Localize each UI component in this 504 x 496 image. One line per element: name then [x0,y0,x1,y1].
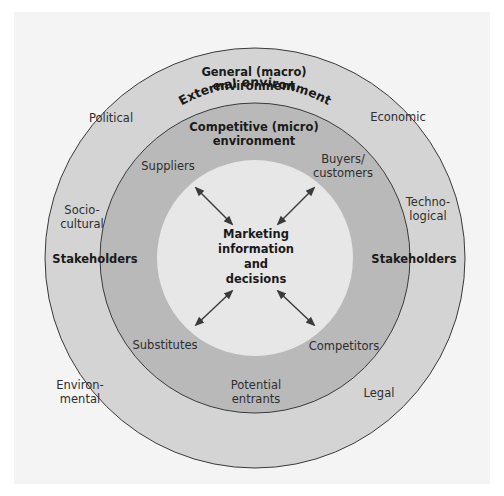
general-title-line1: General (macro) [201,65,306,79]
center-line2: information [218,242,294,257]
center-line3: and [218,257,294,272]
factor-technological: Techno- logical [406,195,450,223]
force-competitors: Competitors [309,339,380,353]
environ-line1: Environ- [56,378,104,392]
competitive-environment-title: Competitive (micro) environment [189,120,318,148]
force-substitutes: Substitutes [133,338,198,352]
entrants-line1: Potential [231,378,281,392]
entrants-line2: entrants [231,392,281,406]
factor-economic: Economic [370,110,426,124]
force-potential-entrants: Potential entrants [231,378,281,406]
factor-sociocultural: Socio- cultural [60,203,104,231]
socio-line2: cultural [60,217,104,231]
techno-line2: logical [406,209,450,223]
center-line1: Marketing [218,227,294,242]
socio-line1: Socio- [60,203,104,217]
factor-environmental: Environ- mental [56,378,104,406]
buyers-line2: customers [313,166,373,180]
force-buyers-customers: Buyers/ customers [313,152,373,180]
stakeholders-left: Stakeholders [52,252,137,266]
general-environment-title: General (macro) environment [201,65,306,93]
factor-political: Political [89,111,133,125]
center-line4: decisions [218,272,294,287]
general-title-line2: environment [201,79,306,93]
environ-line2: mental [56,392,104,406]
stakeholders-right: Stakeholders [371,252,456,266]
techno-line1: Techno- [406,195,450,209]
competitive-title-line2: environment [189,134,318,148]
factor-legal: Legal [364,386,395,400]
competitive-title-line1: Competitive (micro) [189,120,318,134]
center-marketing-decisions: Marketing information and decisions [218,227,294,287]
force-suppliers: Suppliers [141,159,194,173]
buyers-line1: Buyers/ [313,152,373,166]
